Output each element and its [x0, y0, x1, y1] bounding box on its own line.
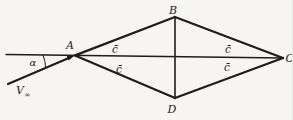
vertex-b-label: B — [168, 4, 177, 17]
chord-label-upper-left: c̄ — [112, 43, 118, 55]
angle-alpha-label: α — [30, 57, 37, 68]
velocity-subscript-infinity: ∞ — [24, 91, 30, 99]
diamond-airfoil-figure: A B C D α V∞ c̄ c̄ c̄ c̄ — [0, 0, 292, 120]
vertex-a-label: A — [65, 39, 74, 52]
chord-label-lower-right: c̄ — [224, 61, 230, 73]
chord-label-upper-right: c̄ — [225, 43, 231, 55]
vertex-c-label: C — [286, 52, 293, 65]
chord-label-lower-left: c̄ — [116, 63, 122, 75]
vertex-d-label: D — [167, 103, 177, 116]
paper-background — [0, 0, 292, 120]
figure-svg: A B C D α V∞ c̄ c̄ c̄ c̄ — [0, 0, 292, 120]
